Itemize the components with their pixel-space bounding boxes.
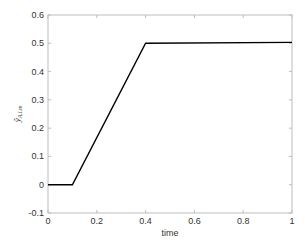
x-tick-label: 0.6 bbox=[188, 216, 201, 226]
y-tick-label: 0 bbox=[39, 180, 44, 190]
line-chart: -0.100.10.20.30.40.50.6 00.20.40.60.81 t… bbox=[0, 0, 305, 242]
y-tick-label: 0.5 bbox=[31, 38, 44, 48]
x-tick-label: 1 bbox=[289, 216, 294, 226]
x-tick-label: 0.4 bbox=[139, 216, 152, 226]
x-tick-label: 0.8 bbox=[237, 216, 250, 226]
y-tick-label: 0.6 bbox=[31, 10, 44, 20]
y-tick-label: 0.4 bbox=[31, 67, 44, 77]
x-tick-label: 0 bbox=[45, 216, 50, 226]
y-tick-label: 0.1 bbox=[31, 151, 44, 161]
y-tick-label: -0.1 bbox=[28, 208, 44, 218]
x-axis-label: time bbox=[161, 228, 178, 238]
plot-area bbox=[48, 15, 292, 213]
x-tick-label: 0.2 bbox=[91, 216, 104, 226]
y-tick-label: 0.3 bbox=[31, 95, 44, 105]
y-axis-label: ŷA,l,m bbox=[12, 105, 23, 123]
y-tick-label: 0.2 bbox=[31, 123, 44, 133]
